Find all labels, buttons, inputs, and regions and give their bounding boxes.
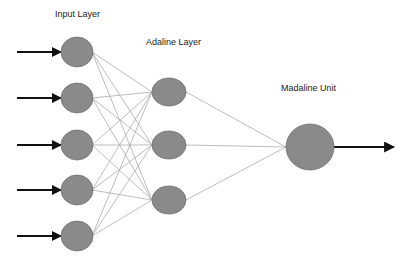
input-layer-label: Input Layer <box>55 9 100 19</box>
adaline-node <box>152 186 186 214</box>
input-node <box>61 83 93 113</box>
input-adaline-edge <box>92 200 152 236</box>
input-adaline-edge <box>92 52 152 145</box>
input-adaline-edge <box>92 92 152 190</box>
madaline-node <box>286 124 334 170</box>
input-adaline-edge <box>92 52 152 92</box>
network-diagram <box>0 0 407 263</box>
adaline-madaline-edge <box>186 145 286 147</box>
adaline-node <box>152 78 186 106</box>
adaline-layer-label: Adaline Layer <box>146 37 201 47</box>
input-node <box>61 37 93 67</box>
adaline-madaline-edge <box>186 147 286 200</box>
input-node <box>61 175 93 205</box>
input-adaline-edge <box>92 145 152 190</box>
input-node <box>61 221 93 251</box>
input-adaline-edge <box>92 145 152 236</box>
madaline-unit-label: Madaline Unit <box>281 83 336 93</box>
adaline-madaline-edge <box>186 92 286 147</box>
input-node <box>61 130 93 160</box>
input-adaline-edge <box>92 98 152 145</box>
input-adaline-edge <box>92 92 152 98</box>
adaline-node <box>152 131 186 159</box>
input-adaline-edge <box>92 92 152 145</box>
input-adaline-edge <box>92 52 152 200</box>
